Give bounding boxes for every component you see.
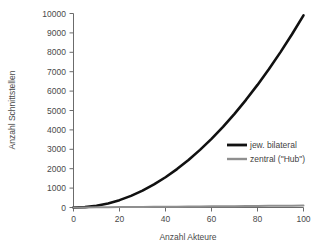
y-tick-label: 1000 — [47, 183, 66, 193]
x-axis-title: Anzahl Akteure — [159, 232, 216, 242]
y-tick-label: 3000 — [47, 144, 66, 154]
y-axis-title: Anzahl Schnittstellen — [7, 70, 17, 149]
x-tick-label: 20 — [115, 214, 125, 224]
y-tick-label: 7000 — [47, 67, 66, 77]
y-tick-label: 4000 — [47, 125, 66, 135]
y-tick-label: 10000 — [42, 9, 66, 19]
chart-container: 0100020003000400050006000700080009000100… — [0, 0, 321, 250]
y-tick-label: 2000 — [47, 164, 66, 174]
x-tick-label: 0 — [71, 214, 76, 224]
y-tick-label: 8000 — [47, 47, 66, 57]
x-tick-label: 60 — [207, 214, 217, 224]
line-chart: 0100020003000400050006000700080009000100… — [0, 0, 321, 250]
x-tick-label: 40 — [161, 214, 171, 224]
x-tick-label: 100 — [296, 214, 310, 224]
legend-label-hub: zentral ("Hub") — [250, 154, 305, 164]
y-tick-label: 5000 — [47, 106, 66, 116]
legend-label-bilateral: jew. bilateral — [249, 140, 297, 150]
y-tick-label: 0 — [61, 203, 66, 213]
y-tick-label: 6000 — [47, 86, 66, 96]
x-tick-label: 80 — [253, 214, 263, 224]
y-tick-label: 9000 — [47, 28, 66, 38]
